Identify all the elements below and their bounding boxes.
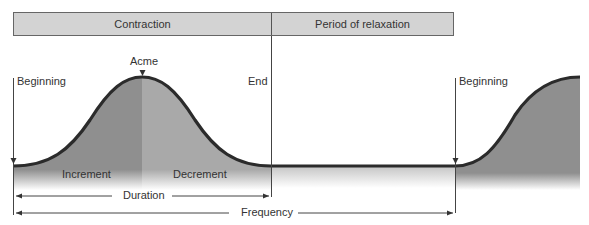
beginning-arrow-icon [11, 158, 17, 164]
next-increment-region [455, 77, 580, 190]
increment-label: Increment [62, 169, 111, 180]
duration-left-arrowhead-icon [16, 194, 22, 199]
acme-label: Acme [130, 56, 158, 67]
beginning-2-arrow-icon [453, 158, 459, 164]
duration-label: Duration [123, 190, 165, 201]
acme-arrow-icon [140, 70, 146, 76]
frequency-label: Frequency [241, 207, 293, 218]
relaxation-baseline-shade [271, 166, 455, 188]
end-label: End [248, 76, 268, 87]
frequency-right-arrowhead-icon [447, 211, 453, 216]
beginning-label: Beginning [17, 76, 66, 87]
decrement-label: Decrement [173, 169, 227, 180]
beginning-2-label: Beginning [459, 76, 508, 87]
frequency-left-arrowhead-icon [16, 211, 22, 216]
duration-right-arrowhead-icon [263, 194, 269, 199]
contraction-diagram [0, 0, 589, 225]
